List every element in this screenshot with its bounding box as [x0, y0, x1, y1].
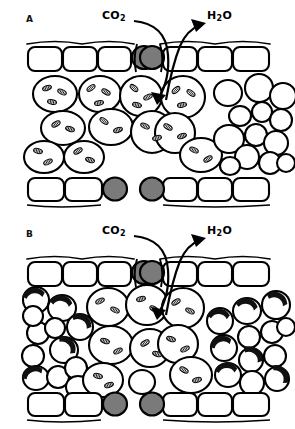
panel-b: B CO2 H2O [0, 215, 295, 429]
leaf-gas-exchange-figure: A CO2 H2O [0, 0, 295, 429]
panel-a-drawing [0, 0, 295, 214]
panel-a: A CO2 H2O [0, 0, 295, 214]
panel-b-drawing [0, 215, 295, 429]
